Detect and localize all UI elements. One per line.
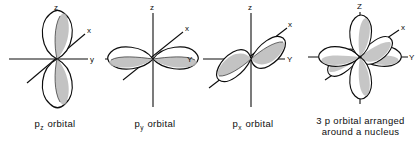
caption-subscript: y bbox=[140, 124, 143, 131]
caption-word: orbital bbox=[147, 118, 175, 129]
caption-subscript: z bbox=[40, 124, 43, 131]
x-axis-label: x bbox=[401, 23, 405, 32]
pz-orbital-diagram: z y x bbox=[0, 0, 110, 120]
panel-py-orbital: z Y x pyorbital bbox=[105, 0, 205, 145]
z-axis-label: z bbox=[248, 3, 252, 12]
orbital-lobe-lower-left bbox=[217, 50, 251, 82]
px-orbital-diagram: z Y x bbox=[203, 0, 303, 120]
y-axis-label: Y bbox=[409, 53, 415, 62]
z-axis-label: z bbox=[54, 3, 58, 12]
caption-line-2: around a nucleus bbox=[303, 126, 418, 137]
z-axis-label: Z bbox=[357, 2, 362, 11]
x-axis-label: x bbox=[288, 20, 292, 29]
caption-word: orbital bbox=[245, 118, 273, 129]
panel-px-orbital: z Y x pxorbital bbox=[203, 0, 303, 145]
three-p-orbital-caption: 3 p orbital arranged around a nucleus bbox=[303, 115, 418, 137]
orbital-lobe-upper bbox=[42, 10, 72, 59]
three-p-orbital-diagram: Z Y x bbox=[303, 0, 418, 115]
y-axis-label: y bbox=[90, 55, 94, 64]
caption-line-1: 3 p orbital arranged bbox=[316, 115, 404, 126]
y-axis-label: Y bbox=[287, 55, 293, 64]
z-axis-label: z bbox=[150, 3, 154, 12]
p-orbital-figure: z y x pzorbital bbox=[0, 0, 418, 145]
caption-subscript: x bbox=[238, 124, 241, 131]
py-orbital-caption: pyorbital bbox=[105, 118, 205, 133]
panel-pz-orbital: z y x pzorbital bbox=[0, 0, 110, 145]
py-orbital-diagram: z Y x bbox=[105, 0, 205, 120]
orbital-lobe-upper-right bbox=[251, 36, 285, 68]
nucleus-point bbox=[358, 55, 361, 58]
y-axis-label: Y bbox=[187, 55, 193, 64]
pz-orbital-caption: pzorbital bbox=[0, 118, 110, 133]
x-axis-label: x bbox=[87, 26, 91, 35]
px-orbital-caption: pxorbital bbox=[203, 118, 303, 133]
caption-word: orbital bbox=[47, 118, 75, 129]
orbital-lobe-left bbox=[108, 47, 153, 69]
panel-three-p-orbital: Z Y x 3 p orbital arranged around a nucl… bbox=[303, 0, 418, 145]
x-axis-label: x bbox=[185, 24, 189, 33]
